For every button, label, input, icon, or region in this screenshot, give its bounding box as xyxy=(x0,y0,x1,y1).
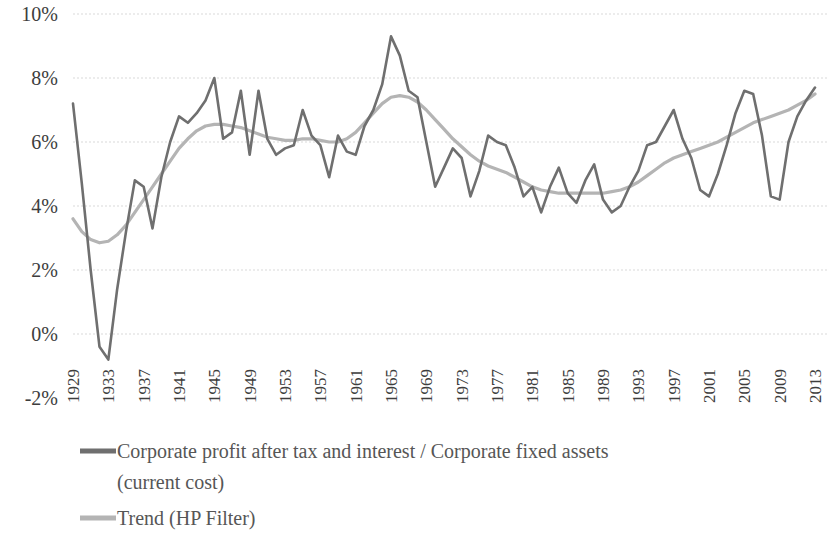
chart-container: 10%8%6%4%2%0%-2% 19291933193719411945194… xyxy=(0,0,834,542)
y-axis-tick-label: 6% xyxy=(31,131,58,153)
x-axis-tick-label: 2013 xyxy=(806,369,825,403)
x-axis-tick-label: 2009 xyxy=(771,369,790,403)
y-axis-tick-labels: 10%8%6%4%2%0%-2% xyxy=(21,3,58,409)
x-axis-tick-label: 1993 xyxy=(629,369,648,403)
x-axis-tick-label: 1997 xyxy=(665,369,684,404)
x-axis-tick-label: 1961 xyxy=(347,369,366,403)
gridlines xyxy=(73,14,828,334)
x-axis-tick-label: 1969 xyxy=(417,369,436,403)
x-axis-tick-label: 1933 xyxy=(99,369,118,403)
y-axis-tick-label: 4% xyxy=(31,195,58,217)
x-axis-tick-label: 1957 xyxy=(311,369,330,404)
legend-label-corporate-profit-rate-line2: (current cost) xyxy=(117,471,224,494)
y-axis-tick-label: -2% xyxy=(25,387,58,409)
legend: Corporate profit after tax and interest … xyxy=(80,440,609,530)
x-axis-tick-labels: 1929193319371941194519491953195719611965… xyxy=(64,369,825,404)
x-axis-tick-label: 1973 xyxy=(453,369,472,403)
legend-label-corporate-profit-rate-line1: Corporate profit after tax and interest … xyxy=(117,440,609,463)
x-axis-tick-label: 2001 xyxy=(700,369,719,403)
x-axis-tick-label: 1977 xyxy=(488,369,507,404)
series-line-corporate-profit-rate xyxy=(73,36,815,359)
plot-lines xyxy=(73,36,815,359)
x-axis-tick-label: 1965 xyxy=(382,369,401,403)
y-axis-tick-label: 10% xyxy=(21,3,58,25)
x-axis-tick-label: 1981 xyxy=(523,369,542,403)
legend-label-trend-hp-filter: Trend (HP Filter) xyxy=(117,507,256,530)
x-axis-tick-label: 2005 xyxy=(735,369,754,403)
x-axis-tick-label: 1929 xyxy=(64,369,83,403)
y-axis-tick-label: 2% xyxy=(31,259,58,281)
x-axis-tick-label: 1953 xyxy=(276,369,295,403)
x-axis-tick-label: 1945 xyxy=(205,369,224,403)
profit-rate-line-chart: 10%8%6%4%2%0%-2% 19291933193719411945194… xyxy=(0,0,834,542)
y-axis-tick-label: 0% xyxy=(31,323,58,345)
x-axis-tick-label: 1941 xyxy=(170,369,189,403)
x-axis-tick-label: 1937 xyxy=(135,369,154,404)
x-axis-tick-label: 1985 xyxy=(559,369,578,403)
y-axis-tick-label: 8% xyxy=(31,67,58,89)
x-axis-tick-label: 1989 xyxy=(594,369,613,403)
x-axis-tick-label: 1949 xyxy=(241,369,260,403)
